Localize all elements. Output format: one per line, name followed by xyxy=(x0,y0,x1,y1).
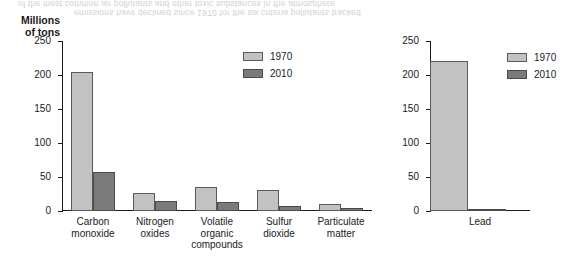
y-tick-label-100: 100 xyxy=(402,138,419,148)
y-tick-label-50: 50 xyxy=(40,172,51,182)
x-category-label: Particulatematter xyxy=(317,216,364,239)
legend-label-2010-right: 2010 xyxy=(534,70,556,80)
x-category-label-line: matter xyxy=(317,228,364,240)
bar-1970 xyxy=(430,61,468,211)
x-category-label-line: Nitrogen xyxy=(136,216,174,228)
plot-area-left: 050100150200250 CarbonmonoxideNitrogenox… xyxy=(62,41,372,211)
x-category-label: Lead xyxy=(469,216,491,228)
bar-2010 xyxy=(155,201,177,211)
y-tick-label-50: 50 xyxy=(408,172,419,182)
x-category-label-line: Volatile xyxy=(191,216,243,228)
y-tick-label-200: 200 xyxy=(34,70,51,80)
y-tick-label-200: 200 xyxy=(402,70,419,80)
x-category-label-line: Lead xyxy=(469,216,491,228)
bar-2010 xyxy=(341,208,363,211)
x-category-label-line: oxides xyxy=(136,228,174,240)
legend-swatch-1970-icon xyxy=(507,53,527,62)
x-category-label-line: organic xyxy=(191,228,243,240)
legend-left: 1970 2010 xyxy=(243,50,292,84)
x-category-label-line: Particulate xyxy=(317,216,364,228)
bar-1970 xyxy=(133,193,155,211)
y-tick-label-0: 0 xyxy=(413,206,419,216)
bar-group: Volatileorganiccompounds xyxy=(186,41,248,211)
legend-swatch-2010-icon xyxy=(243,69,263,78)
x-category-label-line: Sulfur xyxy=(263,216,295,228)
bar-1970 xyxy=(71,72,93,211)
bar-2010 xyxy=(217,202,239,211)
bar-2010 xyxy=(468,209,506,211)
x-category-label-line: Carbon xyxy=(71,216,114,228)
y-tick-0: 0 xyxy=(58,211,63,212)
y-tick-label-250: 250 xyxy=(34,36,51,46)
x-category-label: Sulfurdioxide xyxy=(263,216,295,239)
figure-two-panel-bar-chart: Millions of tons 050100150200250 Carbonm… xyxy=(0,0,563,269)
legend-label-2010: 2010 xyxy=(270,69,292,79)
legend-right: 1970 2010 xyxy=(507,51,556,85)
bar-1970 xyxy=(257,190,279,211)
x-category-label: Carbonmonoxide xyxy=(71,216,114,239)
y-tick-label-150: 150 xyxy=(402,104,419,114)
legend-item-2010-right: 2010 xyxy=(507,68,556,81)
bar-group: Particulatematter xyxy=(310,41,372,211)
y-axis-title-left-line1: Millions xyxy=(0,15,60,27)
bar-group: Nitrogenoxides xyxy=(124,41,186,211)
x-category-label: Nitrogenoxides xyxy=(136,216,174,239)
bar-group: Carbonmonoxide xyxy=(62,41,124,211)
bar-1970 xyxy=(319,204,341,211)
x-category-label-line: compounds xyxy=(191,239,243,251)
y-tick-0: 0 xyxy=(426,211,431,212)
y-tick-label-250: 250 xyxy=(402,36,419,46)
chart-panel-left: Millions of tons 050100150200250 Carbonm… xyxy=(0,0,380,269)
legend-item-1970: 1970 xyxy=(243,50,292,63)
y-tick-label-0: 0 xyxy=(45,206,51,216)
bar-1970 xyxy=(195,187,217,211)
legend-label-1970: 1970 xyxy=(270,52,292,62)
legend-item-1970-right: 1970 xyxy=(507,51,556,64)
y-tick-label-150: 150 xyxy=(34,104,51,114)
legend-item-2010: 2010 xyxy=(243,67,292,80)
y-tick-label-100: 100 xyxy=(34,138,51,148)
legend-swatch-2010-icon xyxy=(507,70,527,79)
bar-2010 xyxy=(279,206,301,211)
legend-swatch-1970-icon xyxy=(243,52,263,61)
x-category-label-line: dioxide xyxy=(263,228,295,240)
bar-2010 xyxy=(93,172,115,211)
x-category-label: Volatileorganiccompounds xyxy=(191,216,243,251)
legend-label-1970-right: 1970 xyxy=(534,53,556,63)
x-category-label-line: monoxide xyxy=(71,228,114,240)
